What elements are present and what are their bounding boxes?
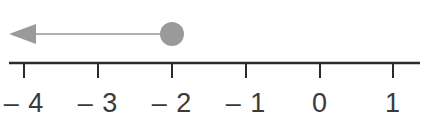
axis-tick-label-5: 1 [385,88,401,118]
axis-tick-label-2: – 2 [152,88,193,118]
axis-tick-label-0: – 4 [4,88,45,118]
number-line-figure: – 4– 3– 2– 101 [0,0,426,131]
number-line-canvas: – 4– 3– 2– 101 [0,0,426,131]
ray-endpoint-closed-circle [160,22,184,46]
ray-arrowhead-left-icon [9,24,36,44]
axis-tick-label-4: 0 [312,88,328,118]
axis-tick-label-1: – 3 [78,88,119,118]
axis-tick-label-3: – 1 [226,88,267,118]
